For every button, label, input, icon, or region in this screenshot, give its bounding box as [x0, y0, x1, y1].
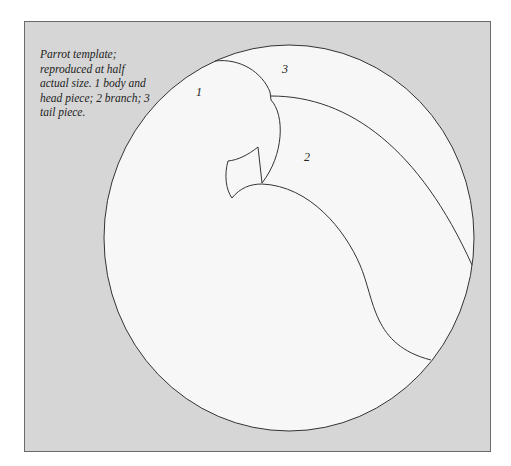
label-piece-3: 3 [282, 62, 288, 77]
template-circle [104, 45, 474, 431]
caption: Parrot template; reproduced at half actu… [40, 47, 150, 120]
label-piece-2: 2 [304, 150, 310, 165]
label-piece-1: 1 [196, 85, 202, 100]
